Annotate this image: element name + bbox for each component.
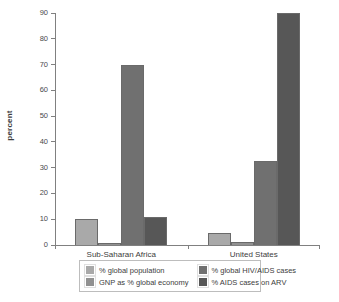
y-axis-tick-mark	[51, 90, 55, 91]
y-axis-tick-label: 90	[40, 8, 48, 17]
legend-item: % global HIV/AIDS cases	[198, 265, 297, 275]
y-axis-tick-mark	[51, 219, 55, 220]
legend-item: GNP as % global economy	[85, 277, 189, 287]
y-axis-tick-mark	[51, 64, 55, 65]
plot-area: 0102030405060708090	[55, 13, 320, 245]
x-axis-tick-mark	[188, 245, 189, 249]
bar	[144, 217, 167, 245]
bar-chart-figure: percent 0102030405060708090 Sub-Saharan …	[0, 0, 339, 302]
y-axis-tick-mark	[51, 38, 55, 39]
legend-item: % global population	[85, 265, 189, 275]
x-axis-tick-mark	[55, 245, 56, 249]
legend-swatch-icon	[198, 265, 208, 275]
y-axis-tick-mark	[51, 141, 55, 142]
y-axis-tick-label: 10	[40, 214, 48, 223]
y-axis-tick-mark	[51, 167, 55, 168]
y-axis-tick-label: 80	[40, 34, 48, 43]
legend-swatch-icon	[85, 277, 95, 287]
y-axis-tick-label: 0	[44, 240, 48, 249]
bar	[231, 242, 254, 245]
bar	[277, 13, 300, 245]
y-axis-tick-label: 70	[40, 60, 48, 69]
y-axis-tick-label: 40	[40, 137, 48, 146]
legend-item: % AIDS cases on ARV	[198, 277, 297, 287]
y-axis-tick-label: 20	[40, 188, 48, 197]
bar	[75, 219, 98, 245]
y-axis-tick-mark	[51, 116, 55, 117]
bar	[208, 233, 231, 245]
legend-swatch-icon	[85, 265, 95, 275]
legend-item-label: % AIDS cases on ARV	[212, 278, 287, 287]
x-axis-category-label: Sub-Saharan Africa	[87, 250, 156, 260]
y-axis-tick-mark	[51, 13, 55, 14]
y-axis-tick-label: 60	[40, 85, 48, 94]
x-axis-tick-mark	[319, 245, 320, 249]
y-axis-tick-mark	[51, 193, 55, 194]
legend-item-label: % global HIV/AIDS cases	[212, 266, 297, 275]
bar	[121, 65, 144, 245]
legend-item-label: GNP as % global economy	[99, 278, 189, 287]
legend-swatch-icon	[198, 277, 208, 287]
bar	[254, 161, 277, 245]
y-axis-tick-label: 50	[40, 111, 48, 120]
x-axis-category-label: United States	[230, 250, 278, 260]
y-axis-title-text: percent	[5, 110, 14, 140]
y-axis-title: percent	[2, 95, 16, 155]
legend-item-label: % global population	[99, 266, 164, 275]
chart-legend: % global population% global HIV/AIDS cas…	[79, 260, 261, 292]
y-axis-tick-label: 30	[40, 163, 48, 172]
bar	[98, 243, 121, 245]
